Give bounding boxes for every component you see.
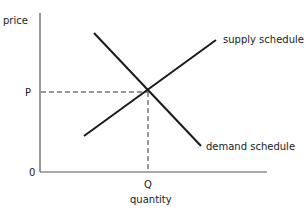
quantity-label: Q xyxy=(144,179,152,190)
x-axis-label: quantity xyxy=(130,194,172,205)
demand-label: demand schedule xyxy=(206,141,295,152)
supply-curve xyxy=(84,40,216,136)
y-axis-label: price xyxy=(3,15,28,26)
price-label: P xyxy=(25,87,31,98)
origin-label: 0 xyxy=(29,167,35,178)
supply-label: supply schedule xyxy=(223,34,304,45)
supply-demand-diagram: price P 0 Q quantity supply schedule dem… xyxy=(0,0,305,216)
